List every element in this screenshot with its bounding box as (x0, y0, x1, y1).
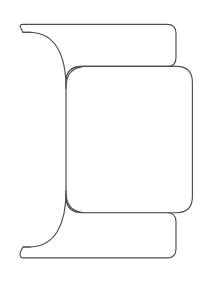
drawing-canvas (0, 0, 219, 285)
center-body-shape (66, 66, 192, 212)
bracket-profile-drawing (0, 0, 219, 285)
profile-group (20, 24, 192, 258)
